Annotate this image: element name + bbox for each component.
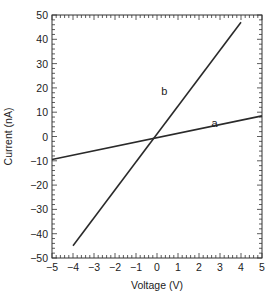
series-label-a: a bbox=[212, 117, 219, 129]
chart: ab −5−4−3−2−101234550403020100−10−20−30−… bbox=[0, 0, 277, 294]
data-lines: ab bbox=[52, 22, 262, 246]
y-tick-label: 10 bbox=[36, 106, 48, 118]
series-label-b: b bbox=[161, 85, 167, 97]
y-tick-label: −10 bbox=[30, 155, 48, 167]
y-tick-label: 30 bbox=[36, 58, 48, 70]
y-tick-label: 0 bbox=[42, 131, 48, 143]
x-tick-label: −3 bbox=[88, 261, 100, 273]
x-tick-label: 1 bbox=[175, 261, 181, 273]
x-axis-label: Voltage (V) bbox=[131, 279, 183, 291]
y-tick-label: −30 bbox=[30, 203, 48, 215]
plot-frame bbox=[52, 15, 262, 258]
series-line-b bbox=[73, 22, 241, 246]
y-tick-label: 50 bbox=[36, 9, 48, 21]
axis-ticks bbox=[52, 15, 262, 258]
series-line-a bbox=[52, 116, 262, 160]
x-tick-label: 2 bbox=[196, 261, 202, 273]
y-tick-label: −20 bbox=[30, 179, 48, 191]
x-tick-label: 0 bbox=[154, 261, 160, 273]
y-axis-label: Current (nA) bbox=[2, 108, 14, 166]
tick-labels: −5−4−3−2−101234550403020100−10−20−30−40−… bbox=[30, 9, 265, 273]
y-tick-label: −40 bbox=[30, 228, 48, 240]
x-tick-label: 3 bbox=[217, 261, 223, 273]
x-tick-label: −2 bbox=[109, 261, 121, 273]
x-tick-label: 4 bbox=[238, 261, 244, 273]
x-tick-label: 5 bbox=[259, 261, 265, 273]
y-tick-label: 40 bbox=[36, 33, 48, 45]
x-tick-label: −4 bbox=[67, 261, 79, 273]
y-tick-label: −50 bbox=[30, 252, 48, 264]
x-tick-label: −1 bbox=[130, 261, 142, 273]
y-tick-label: 20 bbox=[36, 82, 48, 94]
